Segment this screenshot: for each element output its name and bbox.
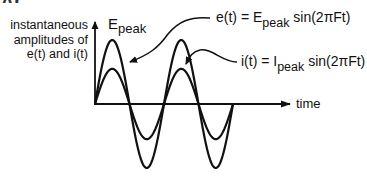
- current-callout-arrow: [186, 50, 237, 64]
- current-equation-lhs: i(t) = I: [241, 53, 277, 69]
- current-equation: i(t) = Ipeak sin(2πFt): [241, 54, 365, 69]
- current-equation-subscript: peak: [277, 60, 304, 74]
- e-peak-main: E: [108, 15, 118, 32]
- y-axis-label-line: e(t) and i(t): [4, 47, 88, 62]
- e-peak-subscript: peak: [118, 21, 146, 36]
- y-axis-label-line: instantaneous: [4, 18, 88, 33]
- voltage-equation-lhs: e(t) = E: [216, 9, 262, 25]
- sine-waveform-diagram: AC Waveforms instantaneous amplitudes of…: [0, 0, 367, 181]
- e-peak-label: Epeak: [108, 17, 146, 32]
- x-axis-label: time: [296, 97, 321, 111]
- voltage-equation-rhs: sin(2πFt): [289, 9, 350, 25]
- voltage-equation-subscript: peak: [262, 16, 289, 30]
- y-axis-label: instantaneous amplitudes of e(t) and i(t…: [4, 18, 88, 62]
- current-equation-rhs: sin(2πFt): [304, 53, 365, 69]
- y-axis-label-line: amplitudes of: [4, 33, 88, 48]
- voltage-equation: e(t) = Epeak sin(2πFt): [216, 10, 350, 25]
